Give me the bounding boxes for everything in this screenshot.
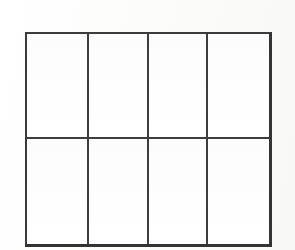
table-cell-r1c3[interactable] [149,34,208,139]
page-canvas [0,0,295,250]
table-cell-text [149,139,206,145]
table-cell-r1c1[interactable] [27,34,89,139]
table-cell-text [89,139,148,145]
table-cell-r1c4[interactable] [208,34,269,139]
table-cell-r1c2[interactable] [89,34,150,139]
blank-grid-table [25,32,272,247]
table-cell-text [208,34,269,40]
table-cell-r2c1[interactable] [27,139,89,245]
table-cell-text [89,34,148,40]
table-cell-text [208,139,269,145]
table-cell-r2c3[interactable] [149,139,208,245]
table-cell-text [27,139,87,145]
table-cell-text [27,34,87,40]
table-cell-r2c2[interactable] [89,139,150,245]
table-cell-r2c4[interactable] [208,139,269,245]
table-cell-text [149,34,206,40]
